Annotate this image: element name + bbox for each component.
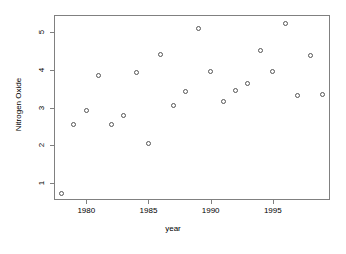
data-point: [245, 81, 250, 86]
data-point: [71, 122, 76, 127]
x-axis-tick-label: 1995: [253, 206, 293, 215]
y-axis-tick-label: 3: [0, 104, 44, 112]
y-axis-tick-label: 5: [0, 28, 44, 36]
y-axis-tick-label: 2: [0, 141, 44, 149]
x-axis-tick: [273, 200, 274, 204]
data-point: [295, 93, 300, 98]
y-axis-tick: [50, 145, 54, 146]
data-point: [59, 191, 64, 196]
y-axis-tick: [50, 183, 54, 184]
x-axis-tick: [211, 200, 212, 204]
x-axis-tick-label: 1980: [66, 206, 106, 215]
y-axis-tick-label: 4: [0, 66, 44, 74]
plot-area: [54, 15, 330, 200]
y-axis-tick: [50, 32, 54, 33]
x-axis-tick-label: 1985: [128, 206, 168, 215]
data-point: [283, 21, 288, 26]
x-axis-tick: [86, 200, 87, 204]
data-point: [196, 26, 201, 31]
data-point: [258, 48, 263, 53]
data-point: [84, 108, 89, 113]
x-axis-tick: [148, 200, 149, 204]
data-point: [320, 92, 325, 97]
data-point: [134, 70, 139, 75]
y-axis-tick: [50, 70, 54, 71]
data-point: [183, 89, 188, 94]
data-point: [171, 103, 176, 108]
data-point: [96, 73, 101, 78]
data-point: [121, 113, 126, 118]
x-axis-tick-label: 1990: [191, 206, 231, 215]
data-point: [158, 52, 163, 57]
data-point: [109, 122, 114, 127]
data-point: [208, 69, 213, 74]
y-axis-tick-label: 1: [0, 179, 44, 187]
data-point: [308, 53, 313, 58]
scatter-plot-figure: Nitrogen Oxide year 12345198019851990199…: [0, 0, 346, 254]
data-point: [270, 69, 275, 74]
x-axis-title: year: [0, 224, 346, 233]
data-point: [221, 99, 226, 104]
y-axis-tick: [50, 108, 54, 109]
data-point: [146, 141, 151, 146]
data-point: [233, 88, 238, 93]
